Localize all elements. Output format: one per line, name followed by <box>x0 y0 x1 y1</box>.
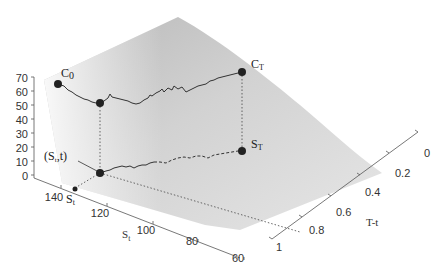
s-tick: 80 <box>186 235 198 247</box>
option-surface-chart: 0 10 20 30 40 50 60 70 140 120 100 80 60… <box>0 0 439 266</box>
s-tick: 60 <box>232 252 244 264</box>
st-point-label: (St,t) <box>44 149 67 164</box>
z-tick: 0 <box>22 170 28 182</box>
time-axis-label: T-t <box>366 216 378 228</box>
s-tick: 140 <box>45 191 63 203</box>
z-tick: 60 <box>16 86 28 98</box>
s-axis-label: St <box>122 228 131 243</box>
z-tick: 10 <box>16 156 28 168</box>
time-tick: 0 <box>424 147 430 159</box>
c0-point <box>54 80 62 88</box>
s-tick: 120 <box>91 207 109 219</box>
time-tick: 0.4 <box>365 186 380 198</box>
st-t-point <box>96 169 104 177</box>
time-tick: 1 <box>276 241 282 253</box>
ct-point <box>238 68 246 76</box>
z-tick: 70 <box>16 72 28 84</box>
value-at-st-point <box>96 99 104 107</box>
time-tick: 0.8 <box>309 224 324 236</box>
z-axis <box>31 77 34 178</box>
st-axis-point <box>73 187 78 192</box>
st-end-point <box>238 147 246 155</box>
z-tick: 20 <box>16 142 28 154</box>
ct-label: CT <box>251 57 264 72</box>
z-tick: 30 <box>16 128 28 140</box>
surface-highlight <box>44 17 382 230</box>
z-tick: 40 <box>16 114 28 126</box>
time-tick: 0.2 <box>395 167 410 179</box>
z-tick: 50 <box>16 100 28 112</box>
time-tick: 0.6 <box>336 206 351 218</box>
s-tick: 100 <box>137 224 155 236</box>
st-axis-label: St <box>66 192 76 207</box>
z-tick-labels: 0 10 20 30 40 50 60 70 <box>16 72 28 182</box>
